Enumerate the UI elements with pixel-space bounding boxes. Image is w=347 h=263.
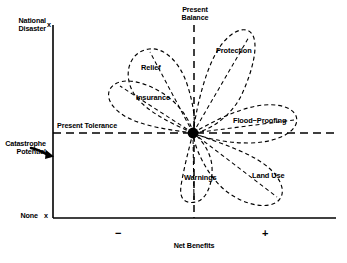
petal-label-land-use: Land Use: [252, 172, 284, 180]
present-balance-label: PresentBalance: [170, 6, 220, 22]
x-axis-negative-sign: −: [115, 227, 121, 239]
petal-label-warnings: Warnings: [184, 174, 217, 182]
petal-land-use: [193, 133, 282, 206]
y-axis-top-label: NationalDisaster: [8, 17, 46, 33]
petal-label-flood-proofing: Flood−Proofing: [233, 117, 286, 125]
origin-point-marker: [188, 128, 199, 139]
y-axis-bottom-label: None: [8, 212, 38, 220]
y-axis-bottom-tick: x: [44, 212, 48, 220]
petal-label-relief: Relief: [141, 64, 161, 72]
hub-spoke-warnings: [193, 133, 194, 202]
x-axis-label: Net Benefits: [159, 242, 229, 250]
catastrophe-potential-label: CatastrophePotential: [2, 140, 46, 156]
diagram-canvas: [0, 0, 347, 263]
y-axis-top-tick: x: [47, 21, 51, 29]
petal-relief: [128, 49, 194, 133]
x-axis-positive-sign: +: [262, 227, 268, 239]
petal-label-protection: Protection: [216, 47, 252, 55]
present-tolerance-label: Present Tolerance: [57, 122, 117, 130]
petal-label-insurance: Insurance: [136, 94, 170, 102]
petal-diagram-figure: NationalDisaster x CatastrophePotential …: [0, 0, 347, 263]
